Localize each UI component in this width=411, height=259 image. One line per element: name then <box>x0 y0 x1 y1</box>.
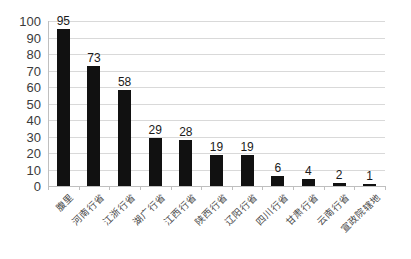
y-axis-tick-label: 70 <box>0 64 41 77</box>
y-axis-tick-label: 30 <box>0 130 41 143</box>
category-label-text: 腹里 <box>54 192 75 213</box>
x-axis-tick <box>201 186 202 190</box>
x-axis-tick <box>293 186 294 190</box>
x-axis-tick <box>385 186 386 190</box>
category-label-text: 江西行省 <box>163 192 198 227</box>
bar <box>302 179 315 186</box>
bar <box>57 29 70 186</box>
y-axis-tick-label: 10 <box>0 163 41 176</box>
y-axis-tick-label: 50 <box>0 97 41 110</box>
bar <box>363 184 376 186</box>
bar <box>210 155 223 186</box>
bar-value-label: 73 <box>87 52 100 64</box>
category-label-text: 辽阳行省 <box>224 192 259 227</box>
x-axis-tick <box>48 186 49 190</box>
bar-value-label: 19 <box>210 141 223 153</box>
y-axis-tick-label: 20 <box>0 147 41 160</box>
x-axis-line <box>48 186 385 187</box>
category-label-text: 陕西行省 <box>193 192 228 227</box>
bar <box>271 176 284 186</box>
bar-value-label: 58 <box>118 76 131 88</box>
bar <box>87 66 100 186</box>
x-axis-tick <box>232 186 233 190</box>
bar-value-label: 29 <box>149 124 162 136</box>
y-axis-tick-label: 90 <box>0 31 41 44</box>
y-axis-tick-label: 40 <box>0 114 41 127</box>
bar-value-label: 95 <box>57 15 70 27</box>
bar-chart: 0102030405060708090100 95735829281919642… <box>0 0 411 259</box>
bar <box>333 183 346 186</box>
x-axis-tick <box>109 186 110 190</box>
category-label-text: 河南行省 <box>71 192 106 227</box>
bar <box>241 155 254 186</box>
x-axis-tick <box>171 186 172 190</box>
bar-value-label: 2 <box>336 169 343 181</box>
bar-value-label: 6 <box>274 162 281 174</box>
y-axis-tick-label: 0 <box>0 180 41 193</box>
y-axis-tick-label: 60 <box>0 81 41 94</box>
bar <box>179 140 192 186</box>
plot-area <box>48 21 385 186</box>
x-axis-tick <box>79 186 80 190</box>
category-label-text: 四川行省 <box>254 192 289 227</box>
bar <box>118 90 131 186</box>
x-axis-tick <box>262 186 263 190</box>
bar-value-label: 4 <box>305 165 312 177</box>
x-axis-tick <box>354 186 355 190</box>
bar <box>149 138 162 186</box>
category-label-text: 江浙行省 <box>101 192 136 227</box>
x-axis-tick <box>324 186 325 190</box>
y-axis-tick-label: 80 <box>0 48 41 61</box>
y-axis-tick-label: 100 <box>0 15 41 28</box>
category-label-text: 甘肃行省 <box>285 192 320 227</box>
bar-value-label: 19 <box>240 141 253 153</box>
bar-value-label: 1 <box>366 170 373 182</box>
bar-value-label: 28 <box>179 126 192 138</box>
category-label-text: 湖广行省 <box>132 192 167 227</box>
x-axis-tick <box>140 186 141 190</box>
